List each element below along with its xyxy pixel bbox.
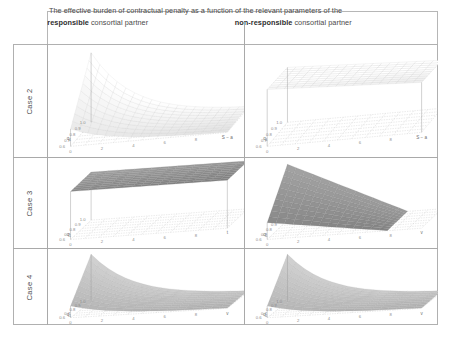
svg-text:1.0: 1.0 [80,299,86,304]
svg-text:4: 4 [132,316,135,321]
axis-tick-labels: 1.00.90.80.70.602468tq₁ [59,217,228,246]
svg-text:1.0: 1.0 [80,217,86,222]
svg-text:0.6: 0.6 [59,144,65,149]
svg-text:6: 6 [359,140,362,145]
svg-text:S − a: S − a [222,135,233,140]
svg-text:2: 2 [297,146,300,151]
row-label-case-2: Case 2 [13,45,47,157]
svg-text:q₁: q₁ [263,136,268,141]
svg-text:0.6: 0.6 [59,237,65,242]
svg-text:2: 2 [297,239,300,244]
svg-text:8: 8 [390,137,393,142]
svg-text:8: 8 [390,312,393,317]
svg-text:0.6: 0.6 [59,315,65,320]
svg-text:0: 0 [266,242,269,247]
svg-text:t: t [227,230,229,235]
svg-text:6: 6 [359,314,362,319]
svg-text:q₁: q₁ [263,232,268,237]
plot-case4-responsible-svg: 1.00.90.80.70.602468vq₁ [48,249,244,325]
svg-text:1.0: 1.0 [276,217,282,222]
surface-mesh [71,254,244,311]
svg-text:0.9: 0.9 [271,303,277,308]
svg-text:1.0: 1.0 [276,120,282,125]
svg-text:2: 2 [101,146,104,151]
svg-text:v: v [420,311,423,316]
svg-text:4: 4 [132,143,135,148]
svg-text:q₁: q₁ [67,232,72,237]
plot-case3-non-responsible: 1.00.90.80.70.602468vq₁ [245,158,438,248]
svg-text:0.9: 0.9 [271,222,277,227]
svg-text:2: 2 [101,318,104,323]
plot-case3-responsible: 1.00.90.80.70.602468tq₁ [48,158,244,248]
svg-text:0.6: 0.6 [256,237,262,242]
row-label-case-4: Case 4 [13,249,47,325]
svg-text:8: 8 [195,137,198,142]
surface-mesh [267,164,407,230]
svg-text:0.9: 0.9 [75,126,81,131]
surface-mesh [71,53,244,137]
ground-grid [71,209,244,240]
svg-text:1.0: 1.0 [80,120,86,125]
row-label-case-2-text: Case 2 [26,88,35,114]
svg-text:v: v [420,230,423,235]
plot-case2-non-responsible-svg: 1.00.90.80.70.602468S − aq₁ [245,45,438,157]
svg-text:0: 0 [69,320,72,325]
svg-text:0.9: 0.9 [75,303,81,308]
svg-text:q₁: q₁ [67,312,72,317]
plot-case4-non-responsible: 1.00.90.80.70.602468vq₁ [245,249,438,325]
svg-text:1.0: 1.0 [276,299,282,304]
svg-text:0.6: 0.6 [256,315,262,320]
surface-mesh [71,161,244,192]
svg-text:2: 2 [297,318,300,323]
plot-case4-non-responsible-svg: 1.00.90.80.70.602468vq₁ [245,249,438,325]
svg-text:2: 2 [101,239,104,244]
surface-mesh [267,60,438,89]
svg-text:6: 6 [163,235,166,240]
svg-text:6: 6 [163,314,166,319]
svg-text:6: 6 [359,235,362,240]
svg-text:4: 4 [328,316,331,321]
plot-case2-responsible: 1.00.90.80.70.602468S − aq₁ [48,45,244,157]
svg-text:4: 4 [328,237,331,242]
svg-text:8: 8 [390,233,393,238]
svg-text:4: 4 [132,237,135,242]
row-label-case-3-text: Case 3 [26,190,35,216]
svg-text:S − a: S − a [416,135,427,140]
plot-case3-non-responsible-svg: 1.00.90.80.70.602468vq₁ [245,158,438,248]
svg-text:8: 8 [195,312,198,317]
surface-mesh [267,254,438,311]
svg-text:0: 0 [266,149,269,154]
plot-case2-responsible-svg: 1.00.90.80.70.602468S − aq₁ [48,45,244,157]
svg-text:q₁: q₁ [67,136,72,141]
svg-text:v: v [226,311,229,316]
row-label-case-3: Case 3 [13,158,47,248]
svg-text:0.6: 0.6 [256,144,262,149]
svg-text:8: 8 [195,233,198,238]
header-column-divider [244,22,245,44]
plot-case2-non-responsible: 1.00.90.80.70.602468S − aq₁ [245,45,438,157]
svg-text:q₁: q₁ [263,312,268,317]
svg-text:0.9: 0.9 [75,222,81,227]
svg-text:0: 0 [69,242,72,247]
figure-header-band [47,11,438,44]
plot-case3-responsible-svg: 1.00.90.80.70.602468tq₁ [48,158,244,248]
figure-panel: The effective burden of contractual pena… [0,0,455,347]
svg-text:4: 4 [328,143,331,148]
svg-text:6: 6 [163,140,166,145]
svg-text:0.9: 0.9 [271,126,277,131]
svg-text:0: 0 [266,320,269,325]
ground-grid [267,108,438,146]
row-label-case-4-text: Case 4 [26,274,35,300]
plot-case4-responsible: 1.00.90.80.70.602468vq₁ [48,249,244,325]
svg-text:0: 0 [69,149,72,154]
